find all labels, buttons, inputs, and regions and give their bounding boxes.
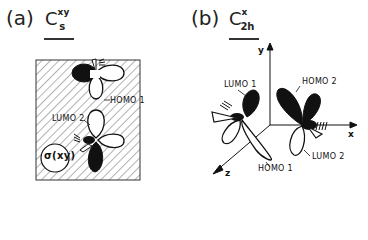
axis-x-label: x xyxy=(348,129,354,139)
label-lumo1-b: LUMO 1 xyxy=(224,80,257,89)
sigma-plane-label: σ(xy) xyxy=(44,150,75,161)
axis-z-label: z xyxy=(225,168,230,178)
label-homo2-b: HOMO 2 xyxy=(302,77,337,86)
label-lumo2-b: LUMO 2 xyxy=(312,152,345,161)
label-homo1-b: HOMO 1 xyxy=(258,164,293,173)
label-lumo2-a: LUMO 2 xyxy=(52,114,85,123)
homo2-lumo2-orbital-b xyxy=(277,88,327,155)
axis-y-label: y xyxy=(258,45,264,55)
label-homo1-a: HOMO 1 xyxy=(110,96,145,105)
